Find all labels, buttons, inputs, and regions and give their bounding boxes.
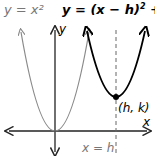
transformed-equation-label: y = (x − h)2 + k: [62, 2, 155, 17]
parent-equation-label: y = x²: [3, 2, 44, 17]
parabola-translation-diagram: y = x² y = (x − h)2 + k y x (h, k) x = h: [0, 0, 155, 156]
axis-of-symmetry-label: x = h: [81, 141, 114, 155]
y-axis-label: y: [58, 22, 67, 36]
vertex-point: [113, 94, 119, 100]
x-axis-label: x: [142, 115, 151, 129]
vertex-label: (h, k): [118, 101, 150, 115]
